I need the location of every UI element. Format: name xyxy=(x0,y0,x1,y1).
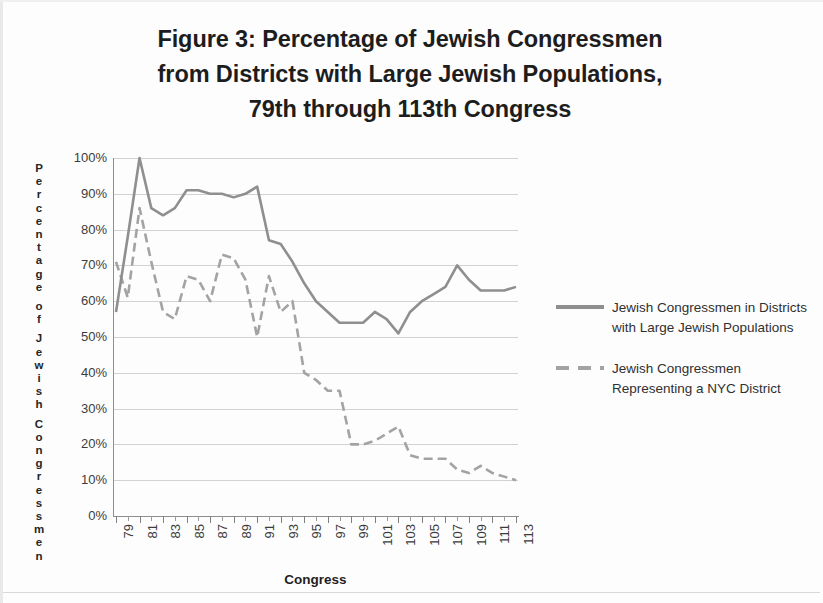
x-axis-tick xyxy=(410,516,411,521)
page-edge-top xyxy=(0,0,823,2)
x-axis-tick-label: 103 xyxy=(403,524,418,546)
y-axis-title-char: n xyxy=(28,444,50,457)
y-axis-title-char: s xyxy=(28,497,50,510)
y-axis-title-char: m xyxy=(28,523,50,536)
y-axis-title-char: g xyxy=(28,268,50,281)
y-axis-title-char: e xyxy=(28,536,50,549)
y-axis-tick-label: 50% xyxy=(61,329,107,344)
x-axis-tick-label: 85 xyxy=(192,524,207,538)
y-axis-tick-label: 70% xyxy=(61,257,107,272)
x-axis-tick xyxy=(245,516,246,521)
x-axis-tick-label: 109 xyxy=(474,524,489,546)
legend-item[interactable]: Jewish Congressmen Representing a NYC Di… xyxy=(556,359,818,398)
x-axis-tick-label: 107 xyxy=(450,524,465,546)
x-axis-tick xyxy=(140,516,141,523)
y-axis-title-char: e xyxy=(28,346,50,359)
x-axis-tick xyxy=(422,516,423,523)
x-axis-tick xyxy=(210,516,211,523)
y-axis-title-char: n xyxy=(28,550,50,563)
y-axis-title: Percentage of Jewish Congressmen xyxy=(28,162,50,563)
x-axis-tick-label: 83 xyxy=(168,524,183,538)
y-axis-title-char: t xyxy=(28,241,50,254)
legend-swatch-dashed-icon xyxy=(556,366,604,370)
x-axis-tick xyxy=(292,516,293,521)
y-axis-tick-label: 90% xyxy=(61,186,107,201)
footer-rule xyxy=(3,592,820,593)
y-axis-title-char: C xyxy=(28,418,50,431)
x-axis-tick-label: 111 xyxy=(497,524,512,544)
plot-area xyxy=(113,158,518,516)
y-axis-title-char: w xyxy=(28,359,50,372)
x-axis-tick-label: 91 xyxy=(262,524,277,538)
y-axis-title-char: r xyxy=(28,470,50,483)
y-axis-tick-label: 0% xyxy=(61,508,107,523)
x-axis-tick xyxy=(234,516,235,523)
x-axis-tick xyxy=(175,516,176,521)
x-axis-tick xyxy=(198,516,199,521)
x-axis-tick-label: 87 xyxy=(215,524,230,538)
x-axis-tick-label: 93 xyxy=(286,524,301,538)
x-axis-tick xyxy=(151,516,152,521)
y-axis-title-char: c xyxy=(28,202,50,215)
y-axis-title-char: e xyxy=(28,484,50,497)
x-axis-tick xyxy=(363,516,364,521)
x-axis-tick xyxy=(187,516,188,523)
y-axis-title-char: s xyxy=(28,385,50,398)
x-axis-tick-label: 113 xyxy=(521,524,536,545)
x-axis-tick-label: 79 xyxy=(121,524,136,538)
x-axis-tick xyxy=(445,516,446,523)
y-axis-title-char: i xyxy=(28,372,50,385)
y-axis-tick-label: 30% xyxy=(61,401,107,416)
series-line-large-jewish-districts xyxy=(116,158,516,333)
y-axis-tick-label: 40% xyxy=(61,365,107,380)
x-axis-tick xyxy=(116,516,117,523)
y-axis-tick-label: 100% xyxy=(61,150,107,165)
x-axis-tick xyxy=(328,516,329,523)
chart-legend: Jewish Congressmen in Districts with Lar… xyxy=(556,298,818,420)
x-axis-tick-label: 99 xyxy=(356,524,371,538)
x-axis-tick xyxy=(281,516,282,523)
figure-title: Figure 3: Percentage of Jewish Congressm… xyxy=(60,22,760,127)
x-axis-tick xyxy=(269,516,270,521)
y-axis-tick-label: 80% xyxy=(61,222,107,237)
x-axis-tick xyxy=(457,516,458,521)
x-axis-tick xyxy=(163,516,164,523)
x-axis-tick-label: 95 xyxy=(309,524,324,538)
x-axis-tick xyxy=(304,516,305,523)
x-axis-tick xyxy=(222,516,223,521)
x-axis-tick xyxy=(128,516,129,521)
legend-label: Jewish Congressmen in Districts with Lar… xyxy=(612,300,807,335)
y-axis-title-char: n xyxy=(28,228,50,241)
x-axis-tick xyxy=(481,516,482,521)
y-axis-title-char: e xyxy=(28,215,50,228)
x-axis-ticks xyxy=(113,516,523,523)
x-axis-tick xyxy=(492,516,493,523)
figure-title-line-1: Figure 3: Percentage of Jewish Congressm… xyxy=(60,22,760,57)
x-axis-title: Congress xyxy=(113,572,518,587)
legend-item[interactable]: Jewish Congressmen in Districts with Lar… xyxy=(556,298,818,337)
figure-title-line-3: 79th through 113th Congress xyxy=(60,92,760,127)
series-line-nyc xyxy=(116,208,516,480)
figure-title-line-2: from Districts with Large Jewish Populat… xyxy=(60,57,760,92)
x-axis-tick xyxy=(340,516,341,521)
figure-page: Figure 3: Percentage of Jewish Congressm… xyxy=(0,0,823,603)
y-axis-tick-label: 10% xyxy=(61,472,107,487)
x-axis-tick-labels: 7981838587899193959799101103105107109111… xyxy=(113,524,533,570)
x-axis-tick xyxy=(387,516,388,521)
y-axis-title-char: P xyxy=(28,162,50,175)
x-axis-tick xyxy=(316,516,317,521)
x-axis-tick xyxy=(469,516,470,523)
x-axis-tick-label: 81 xyxy=(145,524,160,538)
y-axis-tick-labels: 100%90%80%70%60%50%40%30%20%10%0% xyxy=(57,140,107,520)
y-axis-title-char: e xyxy=(28,175,50,188)
y-axis-title-char: s xyxy=(28,510,50,523)
x-axis-tick-label: 101 xyxy=(380,524,395,546)
x-axis-tick-label: 89 xyxy=(239,524,254,538)
series-lines xyxy=(113,158,518,516)
x-axis-tick xyxy=(516,516,517,523)
y-axis-title-char: o xyxy=(28,431,50,444)
x-axis-tick-label: 97 xyxy=(333,524,348,538)
x-axis-tick xyxy=(257,516,258,523)
x-axis-tick xyxy=(504,516,505,521)
legend-swatch-solid-icon xyxy=(556,305,604,309)
